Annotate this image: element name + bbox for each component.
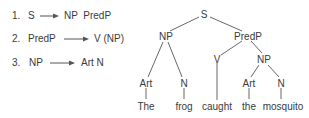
node-s: S [201, 9, 208, 20]
node-v: V [214, 54, 221, 65]
node-np-object: NP [257, 54, 271, 65]
node-n-object: N [277, 78, 284, 89]
tree-nodes: S NP PredP V NP Art N Art N [140, 9, 285, 89]
node-n-subject: N [180, 78, 187, 89]
word-the-1: The [137, 101, 155, 112]
node-art-object: Art [243, 78, 256, 89]
node-art-subject: Art [140, 78, 153, 89]
word-frog: frog [175, 101, 192, 112]
word-caught: caught [202, 101, 232, 112]
parse-tree: S NP PredP V NP Art N Art N The frog cau… [0, 0, 309, 118]
word-the-2: the [242, 101, 256, 112]
node-predp: PredP [234, 31, 262, 42]
node-np-subject: NP [159, 31, 173, 42]
tree-words: The frog caught the mosquito [137, 101, 303, 112]
word-mosquito: mosquito [263, 101, 304, 112]
